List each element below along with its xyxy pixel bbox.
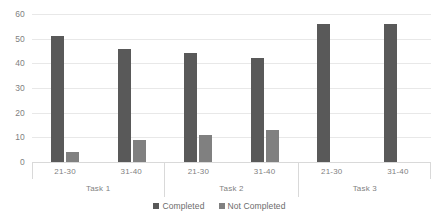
x-axis-category-label: 21-30 [165, 163, 231, 180]
legend-item[interactable]: Completed [153, 201, 204, 211]
x-axis-group-label: Task 1 [32, 180, 164, 197]
bar-completed [184, 53, 197, 162]
bar-group [298, 14, 431, 162]
bar-cluster [298, 14, 365, 162]
x-axis-group: 21-3031-40Task 3 [298, 163, 431, 197]
x-axis-group-label: Task 2 [165, 180, 297, 197]
bar-completed [51, 36, 64, 162]
bar-groups [32, 14, 431, 162]
bar-completed [317, 24, 330, 162]
bar-not-completed [266, 130, 279, 162]
x-axis-category-row: 21-3031-40 [32, 163, 164, 180]
bar-cluster [365, 14, 432, 162]
y-axis-tick-label: 60 [15, 9, 25, 19]
x-axis-band: 21-3031-40Task 121-3031-40Task 221-3031-… [32, 162, 431, 197]
x-axis-category-label: 31-40 [98, 163, 164, 180]
legend-swatch-icon [219, 203, 225, 209]
bar-chart: 0102030405060 21-3031-40Task 121-3031-40… [0, 0, 439, 217]
bar-not-completed [133, 140, 146, 162]
bar-cluster [165, 14, 232, 162]
y-axis-tick-label: 30 [15, 83, 25, 93]
legend-item[interactable]: Not Completed [219, 201, 286, 211]
y-axis-tick-label: 50 [15, 34, 25, 44]
y-axis-tick-label: 40 [15, 58, 25, 68]
x-axis-category-label: 21-30 [299, 163, 365, 180]
bar-group [165, 14, 298, 162]
x-axis-group: 21-3031-40Task 1 [32, 163, 164, 197]
bar-completed [251, 58, 264, 162]
x-axis-category-label: 21-30 [32, 163, 98, 180]
bar-cluster [232, 14, 299, 162]
x-axis-category-row: 21-3031-40 [299, 163, 431, 180]
bar-group [32, 14, 165, 162]
y-axis-tick-label: 10 [15, 132, 25, 142]
y-axis-tick-label: 0 [20, 157, 25, 167]
bar-cluster [32, 14, 99, 162]
y-axis-labels: 0102030405060 [0, 14, 30, 162]
x-axis-group-label: Task 3 [299, 180, 431, 197]
y-axis-tick-label: 20 [15, 108, 25, 118]
chart-legend: CompletedNot Completed [0, 199, 439, 213]
bar-cluster [99, 14, 166, 162]
bar-not-completed [199, 135, 212, 162]
legend-label: Not Completed [228, 201, 286, 211]
x-axis-category-label: 31-40 [232, 163, 298, 180]
x-axis-category-row: 21-3031-40 [165, 163, 297, 180]
bar-completed [118, 49, 131, 162]
legend-swatch-icon [153, 203, 159, 209]
x-axis-group: 21-3031-40Task 2 [164, 163, 297, 197]
plot-area [32, 14, 431, 162]
bar-not-completed [66, 152, 79, 162]
legend-label: Completed [162, 201, 204, 211]
bar-completed [384, 24, 397, 162]
x-axis-category-label: 31-40 [365, 163, 431, 180]
